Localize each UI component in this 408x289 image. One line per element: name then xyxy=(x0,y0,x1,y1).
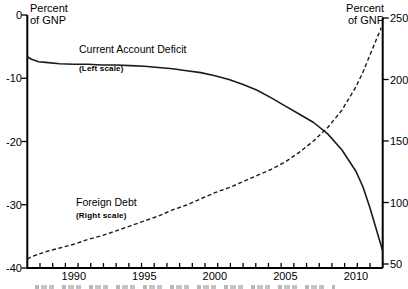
series-scale-note-right: (Right scale) xyxy=(76,210,127,222)
left-axis-tick-label: 0 xyxy=(0,9,22,21)
cropped-caption-remnant xyxy=(35,285,335,289)
x-axis-tick-label: 1995 xyxy=(124,270,164,282)
series-label-foreign-debt: Foreign Debt xyxy=(76,196,137,208)
left-axis-tick-label: -40 xyxy=(0,262,22,274)
right-axis-tick-label: 200 xyxy=(390,74,408,86)
right-axis-unit: Percent of GNP xyxy=(324,3,384,26)
plot-canvas xyxy=(0,0,408,289)
x-axis-tick-label: 2000 xyxy=(195,270,235,282)
right-axis-tick-label: 250 xyxy=(390,12,408,24)
series-scale-note-left: (Left scale) xyxy=(79,63,124,75)
x-axis-tick-label: 2010 xyxy=(336,270,376,282)
chart-figure: Percent of GNP Percent of GNP Current Ac… xyxy=(0,0,408,289)
left-axis-unit-line1: Percent xyxy=(30,3,68,15)
left-axis-tick-label: -10 xyxy=(0,72,22,84)
left-axis-unit-line2: of GNP xyxy=(30,15,68,27)
right-axis-unit-line1: Percent xyxy=(324,3,384,15)
right-axis-tick-label: 50 xyxy=(390,258,402,270)
x-axis-tick-label: 1990 xyxy=(54,270,94,282)
left-axis-tick-label: -20 xyxy=(0,136,22,148)
series-label-current-account-deficit: Current Account Deficit xyxy=(79,43,186,55)
right-axis-unit-line2: of GNP xyxy=(324,15,384,27)
right-axis-tick-label: 150 xyxy=(390,135,408,147)
x-axis-tick-label: 2005 xyxy=(265,270,305,282)
left-axis-unit: Percent of GNP xyxy=(30,3,68,26)
right-axis-tick-label: 100 xyxy=(390,197,408,209)
left-axis-tick-label: -30 xyxy=(0,199,22,211)
